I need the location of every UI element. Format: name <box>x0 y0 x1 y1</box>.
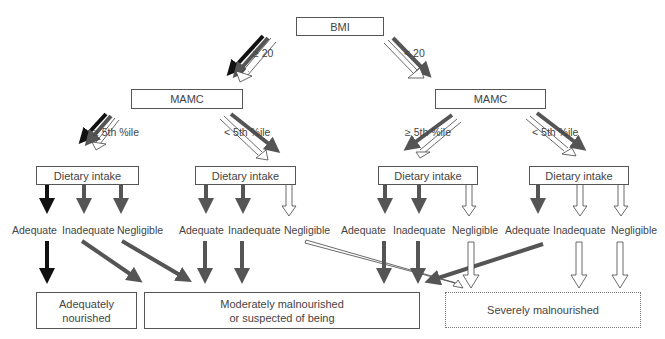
condition-mamc-right-ge5: ≥ 5th %ile <box>405 126 451 138</box>
level-inadequate: Inadequate <box>393 224 446 236</box>
intake-node-2: Dietary intake <box>195 166 296 185</box>
arrows-bmi-ge20 <box>232 36 276 82</box>
intake-node-3: Dietary intake <box>378 166 478 185</box>
arrows-intake-to-levels <box>47 184 628 216</box>
mamc-node-right: MAMC <box>435 89 546 109</box>
level-adequate: Adequate <box>179 224 224 236</box>
condition-bmi-lt20: < 20 <box>404 47 425 59</box>
intake-node-4: Dietary intake <box>529 166 629 185</box>
condition-bmi-ge20: ≥ 20 <box>253 47 273 59</box>
level-adequate: Adequate <box>12 224 57 236</box>
outcome-severely-malnourished: Severely malnourished <box>445 292 641 328</box>
bmi-node: BMI <box>296 17 384 36</box>
intake-node-1: Dietary intake <box>36 166 139 185</box>
condition-mamc-right-lt5: < 5th %ile <box>532 126 578 138</box>
outcome-label: Severely malnourished <box>487 303 599 317</box>
level-adequate: Adequate <box>341 224 386 236</box>
level-inadequate: Inadequate <box>62 224 115 236</box>
outcome-label-line1: Adequately <box>59 297 114 311</box>
outcome-label-line2: nourished <box>62 311 110 325</box>
level-negligible: Negligible <box>117 224 163 236</box>
level-negligible: Negligible <box>284 224 330 236</box>
level-negligible: Negligible <box>452 224 498 236</box>
level-adequate: Adequate <box>505 224 550 236</box>
outcome-moderately-malnourished: Moderately malnourished or suspected of … <box>144 292 420 329</box>
level-inadequate: Inadequate <box>553 224 606 236</box>
arrows-levels-to-outcomes <box>47 240 628 288</box>
level-negligible: Negligible <box>611 224 657 236</box>
outcome-label-line1: Moderately malnourished <box>220 297 344 311</box>
outcome-label-line2: or suspected of being <box>229 311 334 325</box>
mamc-node-left: MAMC <box>131 89 243 109</box>
condition-mamc-left-ge5: ≥ 5th %ile <box>93 126 139 138</box>
condition-mamc-left-lt5: < 5th %ile <box>224 126 270 138</box>
outcome-adequately-nourished: Adequately nourished <box>36 292 137 329</box>
level-inadequate: Inadequate <box>228 224 281 236</box>
